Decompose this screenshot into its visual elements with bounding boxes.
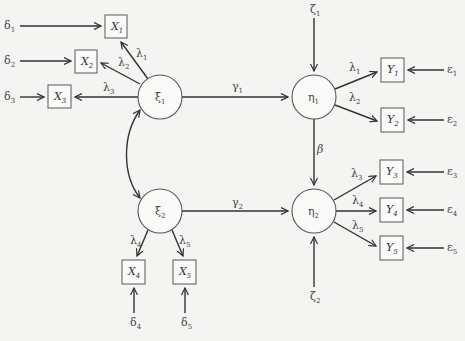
path-label-gamma1: γ1 [232, 80, 243, 95]
node-xi1-sub: 1 [161, 98, 165, 106]
node-eta2-label: η [308, 205, 315, 218]
node-x1: X1 [105, 15, 127, 38]
path-label-lambda2-y: λ2 [349, 91, 360, 106]
epsilon4-label: ε4 [447, 203, 458, 218]
edge-covariance-xi1-xi2 [127, 110, 141, 198]
path-label-gamma2: γ2 [232, 196, 243, 211]
delta1-label: δ1 [4, 19, 15, 34]
epsilon1-label: ε1 [447, 63, 457, 78]
node-y5-sub: 5 [393, 248, 398, 256]
error-terms-y: ε1 ε2 ε3 ε4 ε5 [447, 63, 458, 256]
path-label-lambda5-x: λ5 [179, 234, 190, 249]
node-y3: Y3 [380, 160, 403, 184]
node-xi1: ξ1 [138, 75, 182, 119]
node-xi2: ξ2 [138, 189, 182, 233]
delta5-label: δ5 [181, 316, 192, 331]
node-x5: X5 [173, 260, 196, 284]
node-eta2: η2 [292, 189, 336, 233]
node-eta1: η1 [292, 75, 336, 119]
delta2-label: δ2 [4, 54, 15, 69]
node-y2-sub: 2 [393, 120, 399, 128]
error-terms-x: δ1 δ2 δ3 δ4 δ5 [4, 19, 192, 331]
node-y1: Y1 [381, 58, 404, 82]
observed-y-nodes: Y1 Y2 Y3 Y4 Y5 [380, 58, 404, 260]
node-y1-sub: 1 [394, 70, 398, 78]
zeta2-label: ζ2 [310, 290, 320, 305]
node-y4-sub: 4 [392, 210, 397, 218]
path-label-lambda1-y: λ1 [349, 61, 360, 76]
zeta1-label: ζ1 [310, 3, 320, 18]
epsilon3-label: ε3 [447, 165, 457, 180]
node-x1-sub: 1 [119, 27, 123, 35]
node-x2-sub: 2 [88, 62, 94, 70]
node-x4: X4 [122, 260, 145, 284]
node-eta1-sub: 1 [315, 98, 319, 106]
latent-nodes: ξ1 ξ2 η1 η2 [138, 75, 336, 233]
path-label-lambda1-x: λ1 [136, 47, 147, 62]
path-label-lambda4-y: λ4 [352, 194, 364, 209]
node-y2: Y2 [381, 108, 404, 132]
epsilon2-label: ε2 [447, 113, 457, 128]
delta3-label: δ3 [4, 90, 15, 105]
path-label-beta: β [316, 143, 323, 156]
node-y3-sub: 3 [393, 172, 398, 180]
node-x2: X2 [75, 50, 97, 73]
path-label-lambda3-y: λ3 [351, 167, 362, 182]
node-eta2-sub: 2 [315, 212, 319, 220]
epsilon5-label: ε5 [447, 241, 457, 256]
node-y5: Y5 [380, 236, 403, 260]
sem-path-diagram: ξ1 ξ2 η1 η2 X1 X2 X3 X4 [0, 0, 465, 341]
edge-eta1-y2 [335, 105, 377, 121]
path-label-lambda4-x: λ4 [130, 234, 142, 249]
path-label-lambda3-x: λ3 [103, 81, 114, 96]
node-x4-sub: 4 [135, 272, 140, 280]
node-xi2-sub: 2 [161, 212, 165, 220]
node-x3: X3 [48, 85, 71, 108]
node-x5-sub: 5 [187, 272, 192, 280]
node-eta1-label: η [308, 91, 315, 104]
path-label-lambda5-y: λ5 [352, 219, 363, 234]
node-y4: Y4 [380, 198, 403, 222]
delta4-label: δ4 [130, 316, 142, 331]
path-label-lambda2-x: λ2 [118, 56, 129, 71]
node-x3-sub: 3 [62, 97, 67, 105]
